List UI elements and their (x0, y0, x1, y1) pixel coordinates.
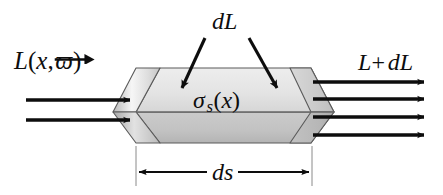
incident-radiance-comma: , (48, 47, 54, 74)
exitant-radiance-dL: dL (388, 49, 413, 75)
omega-glyph: ϖ (55, 48, 73, 73)
sigma-glyph: σ (193, 87, 205, 113)
incident-radiance-label: L(x,ϖ ) (14, 48, 81, 73)
path-length-label: ds (207, 160, 238, 184)
exitant-radiance-label: L+ dL (358, 50, 413, 74)
direction-vector-omega: ϖ (55, 48, 73, 73)
differential-radiance-label: dL (212, 9, 237, 33)
radiative-transfer-figure: L(x,ϖ ) L+ dL dL σs(x) ds (0, 0, 443, 195)
incident-radiance-position-variable: x (36, 47, 47, 74)
scattering-position-variable: x (221, 87, 232, 113)
incident-radiance-close-paren: ) (73, 47, 81, 74)
scattering-close-paren: ) (232, 87, 240, 113)
incident-radiance-open-paren: ( (28, 47, 36, 74)
exitant-radiance-plus-operator: + (372, 49, 386, 75)
scattering-coefficient-label: σs(x) (193, 88, 240, 115)
incident-radiance-L: L (14, 47, 28, 74)
exitant-radiance-L: L (358, 49, 371, 75)
